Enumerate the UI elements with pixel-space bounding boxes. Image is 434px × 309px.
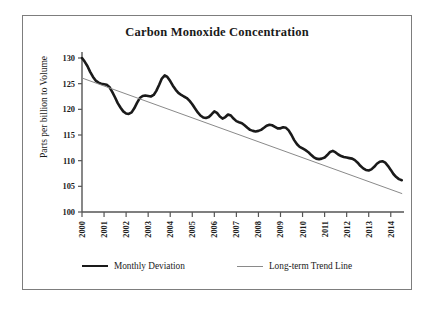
plot-area: 100105110115120125130 200020012002200320… <box>23 16 413 291</box>
svg-text:125: 125 <box>62 80 75 89</box>
svg-text:105: 105 <box>62 182 75 191</box>
svg-text:100: 100 <box>62 208 75 217</box>
legend-item-monthly-deviation[interactable]: Monthly Deviation <box>82 261 185 271</box>
svg-text:2009: 2009 <box>276 221 285 238</box>
svg-text:2012: 2012 <box>343 221 352 238</box>
svg-text:2013: 2013 <box>365 221 374 238</box>
svg-text:110: 110 <box>63 157 75 166</box>
legend-line-swatch-icon <box>237 266 263 267</box>
figure-frame: Carbon Monoxide Concentration Parts per … <box>22 15 412 290</box>
svg-text:2000: 2000 <box>78 221 87 238</box>
legend-label: Long-term Trend Line <box>269 261 352 271</box>
y-axis-ticks: 100105110115120125130 <box>62 54 82 217</box>
svg-text:115: 115 <box>63 131 75 140</box>
chart-legend: Monthly Deviation Long-term Trend Line <box>23 261 411 271</box>
legend-label: Monthly Deviation <box>114 261 185 271</box>
svg-text:2002: 2002 <box>122 221 131 238</box>
svg-text:2006: 2006 <box>210 221 219 238</box>
svg-text:2003: 2003 <box>144 221 153 238</box>
svg-text:2007: 2007 <box>232 221 241 238</box>
svg-text:2010: 2010 <box>299 221 308 238</box>
svg-text:130: 130 <box>62 54 75 63</box>
svg-text:2001: 2001 <box>100 221 109 238</box>
axes <box>82 52 404 212</box>
legend-line-swatch-icon <box>82 265 108 267</box>
svg-text:2011: 2011 <box>321 221 330 237</box>
svg-text:2008: 2008 <box>254 221 263 238</box>
svg-text:120: 120 <box>62 105 75 114</box>
data-series <box>82 58 402 194</box>
svg-text:2005: 2005 <box>188 221 197 238</box>
x-axis-ticks: 2000200120022003200420052006200720082009… <box>78 212 396 238</box>
svg-text:2004: 2004 <box>166 220 175 238</box>
legend-item-trend-line[interactable]: Long-term Trend Line <box>237 261 352 271</box>
svg-text:2014: 2014 <box>387 220 396 238</box>
